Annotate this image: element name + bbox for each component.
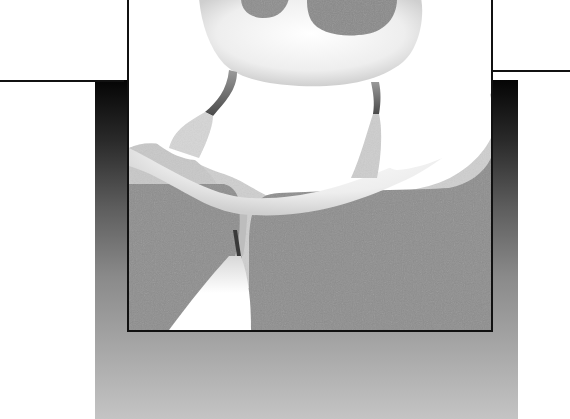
right-margin	[518, 72, 570, 419]
left-margin	[0, 82, 95, 419]
left-ledge	[0, 0, 124, 82]
tissue-illustration	[129, 0, 491, 330]
figure-canvas	[0, 0, 570, 419]
section-frame	[127, 0, 493, 332]
right-ledge	[485, 0, 570, 72]
